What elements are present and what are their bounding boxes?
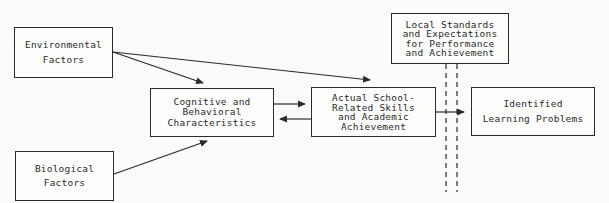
environmental-factors-box: Environmental Factors — [14, 27, 113, 78]
node-label: Factors — [43, 55, 84, 66]
arrow-bio-to-cognitive — [114, 141, 207, 174]
identified-learning-problems-box: Identified Learning Problems — [471, 87, 595, 136]
node-label: Characteristics — [168, 118, 257, 129]
local-standards-box: Local Standards and Expectations for Per… — [391, 13, 509, 64]
arrow-env-to-actual — [113, 52, 370, 80]
node-label: Environmental — [25, 40, 102, 51]
node-label: Learning Problems — [483, 114, 584, 125]
diagram-canvas: Environmental Factors Biological Factors… — [0, 0, 609, 203]
actual-school-skills-box: Actual School- Related Skills and Academ… — [311, 87, 436, 137]
node-label: Factors — [44, 178, 85, 189]
biological-factors-box: Biological Factors — [15, 151, 114, 201]
node-label: and Achievement — [406, 48, 495, 58]
node-label: Achievement — [341, 122, 406, 132]
cognitive-behavioral-box: Cognitive and Behavioral Characteristics — [150, 88, 274, 137]
node-label: Biological — [35, 164, 94, 175]
node-label: Identified — [503, 99, 562, 110]
